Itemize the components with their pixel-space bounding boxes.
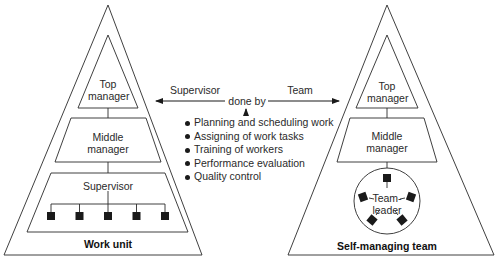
- task-item: Planning and scheduling work: [185, 116, 334, 130]
- label-line: manager: [88, 90, 128, 102]
- team-member-node: [383, 174, 391, 182]
- worker-node: [76, 212, 84, 220]
- right-middle-manager-label: Middle manager: [357, 130, 417, 154]
- task-item: Assigning of work tasks: [185, 130, 334, 144]
- work-unit-pyramid: [4, 5, 202, 255]
- label-line: manager: [357, 142, 417, 154]
- worker-node: [133, 212, 141, 220]
- worker-node: [161, 212, 169, 220]
- task-item: Quality control: [185, 170, 334, 184]
- label-line: Top: [367, 80, 407, 92]
- worker-node: [47, 212, 55, 220]
- left-middle-manager-label: Middle manager: [78, 131, 138, 155]
- team-arrow-label: Team: [280, 84, 320, 96]
- left-top-manager-label: Top manager: [88, 78, 128, 102]
- label-line: manager: [78, 143, 138, 155]
- self-managing-team-title: Self-managing team: [327, 240, 447, 252]
- done-by-label: done by: [226, 95, 268, 107]
- left-supervisor-label: Supervisor: [73, 180, 143, 192]
- label-line: Middle: [78, 131, 138, 143]
- work-unit-outer-triangle: [4, 5, 202, 255]
- label-line: Middle: [357, 130, 417, 142]
- right-top-manager-label: Top manager: [367, 80, 407, 104]
- label-line: manager: [367, 92, 407, 104]
- task-item: Training of workers: [185, 143, 334, 157]
- label-line: leader: [367, 204, 407, 216]
- task-list: Planning and scheduling work Assigning o…: [185, 116, 334, 184]
- worker-node: [104, 212, 112, 220]
- work-unit-title: Work unit: [58, 238, 158, 250]
- label-line: Top: [88, 78, 128, 90]
- team-leader-label: Team- leader: [367, 192, 407, 216]
- task-item: Performance evaluation: [185, 157, 334, 171]
- supervisor-arrow-label: Supervisor: [165, 84, 225, 96]
- label-line: Team-: [367, 192, 407, 204]
